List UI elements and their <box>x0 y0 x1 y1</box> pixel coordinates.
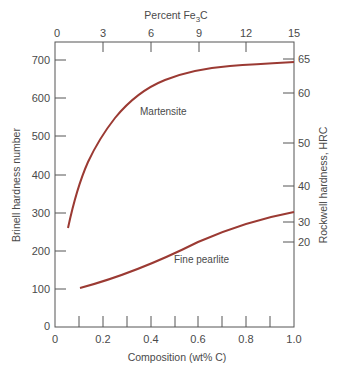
left-axis-ticks <box>55 60 66 289</box>
svg-text:300: 300 <box>32 207 50 219</box>
svg-text:400: 400 <box>32 169 50 181</box>
svg-text:40: 40 <box>298 180 310 192</box>
svg-text:0.4: 0.4 <box>143 333 158 345</box>
martensite-curve <box>68 62 294 228</box>
svg-text:700: 700 <box>32 54 50 66</box>
svg-text:600: 600 <box>32 92 50 104</box>
svg-text:15: 15 <box>288 27 300 39</box>
hardness-chart: 0 3 6 9 12 15 Percent Fe3C 0 100 200 300… <box>0 0 337 376</box>
svg-text:9: 9 <box>196 27 202 39</box>
fine-pearlite-label: Fine pearlite <box>174 254 229 265</box>
svg-text:65: 65 <box>298 53 310 65</box>
top-axis-ticks <box>103 42 246 52</box>
svg-text:500: 500 <box>32 130 50 142</box>
svg-text:6: 6 <box>148 27 154 39</box>
svg-text:1.0: 1.0 <box>286 333 301 345</box>
bottom-axis-ticks <box>79 316 270 327</box>
svg-text:50: 50 <box>298 137 310 149</box>
martensite-label: Martensite <box>140 106 187 117</box>
svg-text:0: 0 <box>44 320 50 332</box>
top-axis-labels: 0 3 6 9 12 15 <box>54 27 300 39</box>
svg-text:200: 200 <box>32 245 50 257</box>
svg-text:0: 0 <box>52 333 58 345</box>
svg-text:12: 12 <box>240 27 252 39</box>
svg-text:60: 60 <box>298 87 310 99</box>
svg-text:0.2: 0.2 <box>95 333 110 345</box>
svg-text:3: 3 <box>100 27 106 39</box>
right-axis-labels: 65 60 50 40 30 20 <box>298 53 310 248</box>
left-axis-title: Brinell hardness number <box>10 128 22 242</box>
bottom-axis-title: Composition (wt% C) <box>128 351 227 363</box>
fine-pearlite-curve <box>80 212 294 288</box>
svg-text:0.6: 0.6 <box>190 333 205 345</box>
svg-text:30: 30 <box>298 216 310 228</box>
bottom-axis-labels: 0 0.2 0.4 0.6 0.8 1.0 <box>52 333 302 345</box>
svg-text:0: 0 <box>54 27 60 39</box>
svg-text:20: 20 <box>298 236 310 248</box>
left-axis-labels: 0 100 200 300 400 500 600 700 <box>32 54 50 332</box>
svg-text:100: 100 <box>32 283 50 295</box>
top-axis-title: Percent Fe3C <box>144 9 208 24</box>
right-axis-title: Rockwell hardness, HRC <box>317 126 329 243</box>
svg-text:0.8: 0.8 <box>238 333 253 345</box>
